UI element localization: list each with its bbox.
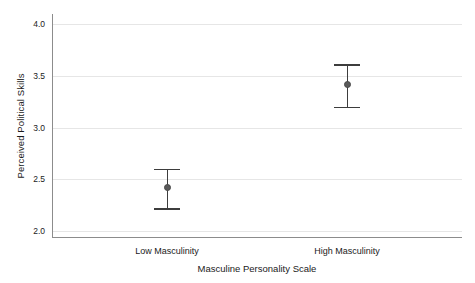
- gridline-2-0: [52, 231, 462, 232]
- errorbar-lower-cap: [154, 208, 180, 209]
- gridline-3-0: [52, 128, 462, 129]
- y-tick-label: 4.0: [5, 18, 45, 30]
- x-axis-title: Masculine Personality Scale: [52, 262, 462, 276]
- x-tick-label-low-masculinity: Low Masculinity: [87, 244, 247, 258]
- x-axis-line: [52, 237, 462, 238]
- errorbar-lower-cap: [334, 107, 360, 108]
- chart-figure: Perceived Political Skills 4.0 3.5 3.0 2…: [0, 0, 475, 283]
- gridline-4-0: [52, 24, 462, 25]
- y-axis-tick-labels: 4.0 3.5 3.0 2.5 2.0: [0, 0, 52, 283]
- gridline-3-5: [52, 76, 462, 77]
- y-tick-label: 2.5: [5, 173, 45, 185]
- y-tick-label: 3.5: [5, 70, 45, 82]
- gridline-2-5: [52, 179, 462, 180]
- x-tick-label-high-masculinity: High Masculinity: [267, 244, 427, 258]
- y-axis-line: [52, 14, 53, 238]
- plot-area: [52, 14, 462, 238]
- data-point-marker: [164, 184, 171, 191]
- y-tick-label: 2.0: [5, 225, 45, 237]
- data-point-marker: [344, 81, 351, 88]
- y-tick-label: 3.0: [5, 122, 45, 134]
